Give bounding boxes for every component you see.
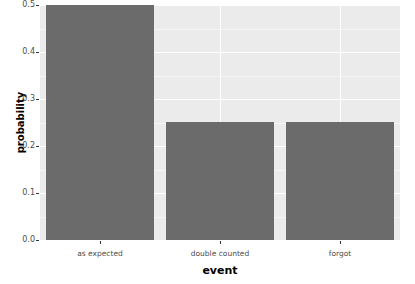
y-tick-label: 0.3 (16, 95, 35, 103)
y-tick-mark (36, 193, 39, 194)
y-tick: 0.0 (16, 236, 35, 244)
y-tick-mark (36, 5, 39, 6)
bar (286, 122, 394, 240)
y-tick: 0.1 (16, 189, 35, 197)
x-tick-label: forgot (329, 249, 351, 258)
y-tick: 0.2 (16, 142, 35, 150)
bar (46, 5, 154, 240)
y-axis-ticks: 0.00.10.20.30.40.5 (16, 0, 35, 284)
y-tick-label: 0.2 (16, 142, 35, 150)
y-tick-mark (36, 99, 39, 100)
y-tick: 0.4 (16, 48, 35, 56)
x-tick-label: as expected (77, 249, 123, 258)
y-tick-label: 0.0 (16, 236, 35, 244)
x-axis-title: event (40, 264, 400, 277)
x-tick-label: double counted (191, 249, 249, 258)
x-tick-mark (220, 241, 221, 244)
y-tick-mark (36, 52, 39, 53)
y-tick-label: 0.4 (16, 48, 35, 56)
x-tick-mark (100, 241, 101, 244)
y-tick-label: 0.1 (16, 189, 35, 197)
y-tick-mark (36, 240, 39, 241)
y-tick: 0.5 (16, 1, 35, 9)
plot-panel (40, 5, 400, 240)
bar-chart: probability 0.00.10.20.30.40.5 as expect… (0, 0, 415, 284)
y-tick-label: 0.5 (16, 1, 35, 9)
bar (166, 122, 274, 240)
y-tick-mark (36, 146, 39, 147)
y-tick: 0.3 (16, 95, 35, 103)
x-tick-mark (340, 241, 341, 244)
